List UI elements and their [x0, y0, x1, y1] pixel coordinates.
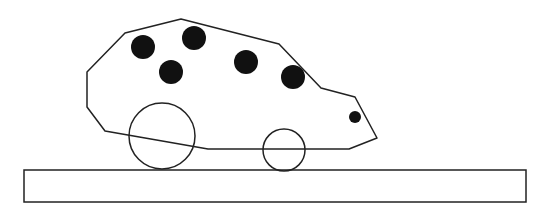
wheels-group — [129, 103, 305, 171]
rear-wheel — [129, 103, 195, 169]
spot — [349, 111, 361, 123]
spots-group — [131, 26, 361, 123]
car-body — [87, 19, 377, 149]
spot — [159, 60, 183, 84]
drawing-canvas — [0, 0, 556, 212]
spot — [281, 65, 305, 89]
front-wheel — [263, 129, 305, 171]
spot — [234, 50, 258, 74]
platform — [24, 170, 526, 202]
spot — [182, 26, 206, 50]
spot — [131, 35, 155, 59]
